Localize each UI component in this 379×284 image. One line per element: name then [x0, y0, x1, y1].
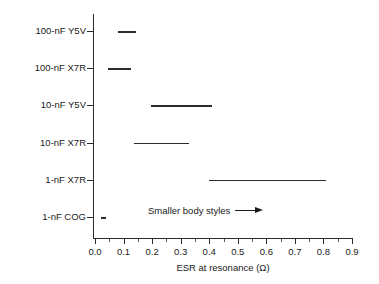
- x-axis-major-tick: [323, 239, 324, 244]
- y-axis-label: 1-nF COG: [6, 212, 86, 222]
- data-range-segment: [151, 105, 212, 107]
- x-axis-tick-label: 0.0: [80, 246, 110, 257]
- x-axis-major-tick: [124, 239, 125, 244]
- y-axis-label: 100-nF Y5V: [6, 26, 86, 36]
- x-axis-tick-label: 0.7: [280, 246, 310, 257]
- smaller-body-styles-annotation: Smaller body styles: [148, 205, 263, 216]
- x-axis-minor-tick: [109, 239, 110, 242]
- y-axis-labels: 100-nF Y5V100-nF X7R10-nF Y5V10-nF X7R1-…: [2, 0, 86, 284]
- x-axis-tick-label: 0.1: [109, 246, 139, 257]
- y-axis-label: 10-nF Y5V: [6, 100, 86, 110]
- x-axis-minor-tick: [166, 239, 167, 242]
- y-axis-label: 10-nF X7R: [6, 138, 86, 148]
- esr-resonance-chart: 100-nF Y5V100-nF X7R10-nF Y5V10-nF X7R1-…: [0, 0, 379, 284]
- x-axis-title: ESR at resonance (Ω): [93, 262, 353, 273]
- data-range-segment: [134, 143, 190, 145]
- x-axis-tick-label: 0.4: [194, 246, 224, 257]
- x-axis-major-tick: [152, 239, 153, 244]
- x-axis-major-tick: [95, 239, 96, 244]
- x-axis-major-tick: [238, 239, 239, 244]
- data-range-segment: [209, 180, 326, 182]
- x-axis-major-tick: [181, 239, 182, 244]
- right-arrow-icon: [235, 207, 263, 215]
- x-axis-minor-tick: [309, 239, 310, 242]
- x-axis-minor-tick: [138, 239, 139, 242]
- x-axis-tick-label: 0.5: [223, 246, 253, 257]
- y-axis-label: 1-nF X7R: [6, 175, 86, 185]
- x-axis-tick-label: 0.2: [137, 246, 167, 257]
- x-axis-minor-tick: [281, 239, 282, 242]
- x-axis-major-tick: [266, 239, 267, 244]
- x-axis-major-tick: [352, 239, 353, 244]
- x-axis-tick-label: 0.8: [308, 246, 338, 257]
- x-axis-tick-label: 0.3: [166, 246, 196, 257]
- x-axis-minor-tick: [338, 239, 339, 242]
- x-axis-minor-tick: [195, 239, 196, 242]
- x-axis-major-tick: [295, 239, 296, 244]
- x-axis-major-tick: [209, 239, 210, 244]
- x-axis-minor-tick: [224, 239, 225, 242]
- data-range-segment: [101, 217, 107, 219]
- x-axis-minor-tick: [252, 239, 253, 242]
- x-axis-tick-label: 0.9: [337, 246, 367, 257]
- data-range-segment: [108, 68, 131, 70]
- annotation-label: Smaller body styles: [148, 205, 230, 216]
- y-axis-label: 100-nF X7R: [6, 63, 86, 73]
- x-axis-tick-label: 0.6: [251, 246, 281, 257]
- data-range-segment: [118, 31, 137, 33]
